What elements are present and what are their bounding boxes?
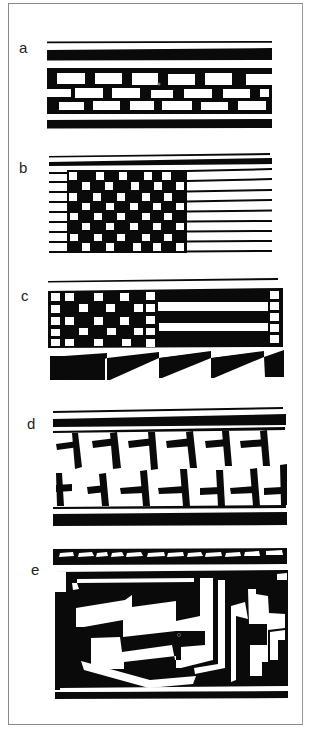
pattern-drawings <box>0 0 316 731</box>
panel-d-hook-pattern <box>53 407 287 526</box>
